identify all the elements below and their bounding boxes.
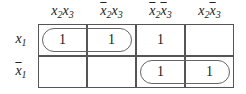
column-header: x2x3 (185, 2, 234, 20)
row-header: x1 (10, 31, 32, 47)
kmap-cell (185, 24, 234, 56)
grouping-loop (140, 60, 230, 84)
column-header: x2x3 (38, 2, 87, 20)
kmap-cell: 1 (136, 24, 185, 56)
row-header: x1 (10, 63, 32, 79)
kmap-cell (38, 56, 87, 88)
column-header: x2x3 (136, 2, 185, 20)
kmap-grid: 11111 (38, 24, 234, 88)
kmap-cell (87, 56, 136, 88)
column-header: x2x3 (87, 2, 136, 20)
grouping-loop (42, 28, 132, 52)
